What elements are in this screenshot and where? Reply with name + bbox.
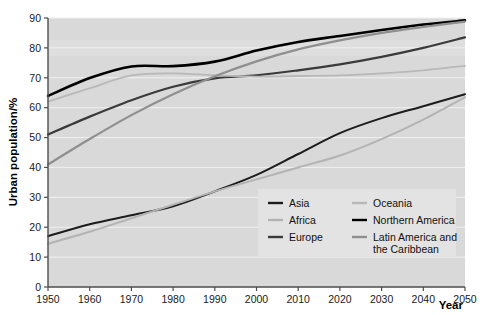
- legend-label: Asia: [289, 197, 310, 209]
- legend-label-line2: the Caribbean: [373, 243, 439, 255]
- chart-canvas: 0102030405060708090 19501960197019801990…: [0, 0, 493, 315]
- urban-population-chart: 0102030405060708090 19501960197019801990…: [0, 0, 493, 315]
- y-tick-label: 10: [29, 251, 41, 263]
- y-tick-label: 90: [29, 12, 41, 24]
- x-axis-ticks: 1950196019701980199020002010202020302040…: [36, 287, 477, 305]
- x-tick-label: 1980: [161, 293, 185, 305]
- y-tick-label: 50: [29, 131, 41, 143]
- y-tick-label: 70: [29, 72, 41, 84]
- x-axis-title: Year: [439, 299, 464, 311]
- x-tick-label: 1960: [78, 293, 102, 305]
- legend-label: Europe: [289, 231, 323, 243]
- legend-label: Latin America and: [373, 231, 457, 243]
- x-tick-label: 2010: [287, 293, 311, 305]
- x-tick-label: 2020: [328, 293, 352, 305]
- legend-label: Africa: [289, 214, 316, 226]
- y-tick-label: 80: [29, 42, 41, 54]
- chart-legend: AsiaAfricaEuropeOceaniaNorthern AmericaL…: [258, 189, 457, 256]
- y-axis-title: Urban population/%: [7, 98, 19, 207]
- x-tick-label: 2000: [245, 293, 269, 305]
- y-tick-label: 0: [35, 281, 41, 293]
- y-tick-label: 30: [29, 191, 41, 203]
- y-tick-label: 20: [29, 221, 41, 233]
- x-tick-label: 2040: [412, 293, 436, 305]
- x-tick-label: 1970: [120, 293, 144, 305]
- y-axis-ticks: 0102030405060708090: [29, 12, 48, 293]
- x-tick-label: 1990: [203, 293, 227, 305]
- y-tick-label: 40: [29, 161, 41, 173]
- y-tick-label: 60: [29, 101, 41, 113]
- x-tick-label: 2030: [370, 293, 394, 305]
- x-tick-label: 1950: [36, 293, 60, 305]
- legend-label: Northern America: [373, 214, 455, 226]
- legend-label: Oceania: [373, 197, 412, 209]
